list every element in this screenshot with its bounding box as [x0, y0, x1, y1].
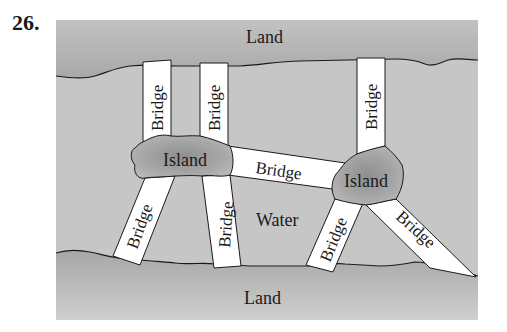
bridge-3: Bridge [357, 58, 385, 154]
bridge-3-label: Bridge [362, 84, 381, 130]
island-right-label: Island [344, 171, 388, 191]
island-left-label: Island [163, 150, 207, 170]
bridge-6-label: Bridge [215, 201, 237, 248]
bridge-1: Bridge [143, 60, 171, 142]
land-top-label: Land [246, 27, 283, 47]
bridge-1-label: Bridge [148, 85, 167, 131]
bridge-2-label: Bridge [205, 85, 224, 131]
island-left: Island [131, 135, 233, 178]
bridge-diagram: Bridge Bridge Bridge Bridge Bridge Bridg… [0, 0, 507, 332]
bridge-2: Bridge [200, 63, 228, 146]
land-bottom-label: Land [244, 288, 281, 308]
water-label: Water [256, 210, 299, 230]
